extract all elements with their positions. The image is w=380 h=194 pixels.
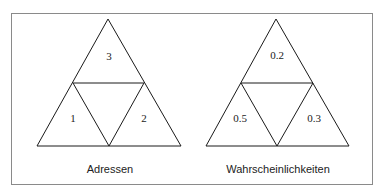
probability-left-cell: 0.5 xyxy=(233,112,247,124)
address-left-cell: 1 xyxy=(70,112,76,124)
address-inner-triangle xyxy=(73,83,144,146)
probability-caption: Wahrscheinlichkeiten xyxy=(226,163,330,175)
probability-right-cell: 0.3 xyxy=(307,112,321,124)
address-right-cell: 2 xyxy=(141,112,147,124)
address-top-cell: 3 xyxy=(106,50,112,62)
triangle-diagrams: 3 1 2 Adressen 0.2 0.5 0.3 Wahrscheinlic… xyxy=(0,0,380,194)
probability-inner-triangle xyxy=(241,83,313,146)
address-caption: Adressen xyxy=(87,163,133,175)
probability-triangle xyxy=(206,19,349,146)
address-triangle xyxy=(37,19,181,146)
probability-top-cell: 0.2 xyxy=(270,49,284,61)
figure: 3 1 2 Adressen 0.2 0.5 0.3 Wahrscheinlic… xyxy=(0,0,380,194)
